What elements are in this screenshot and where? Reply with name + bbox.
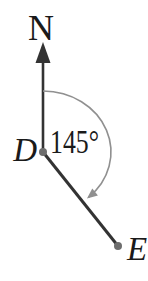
point-e-dot (114, 242, 122, 250)
bearing-diagram: N D 145° E (0, 0, 148, 281)
diagram-canvas: N D 145° E (0, 0, 148, 281)
angle-label: 145° (50, 123, 99, 160)
point-d-dot (39, 148, 47, 156)
point-e-label: E (126, 231, 147, 267)
north-label: N (28, 8, 54, 48)
point-d-label: D (12, 132, 37, 168)
